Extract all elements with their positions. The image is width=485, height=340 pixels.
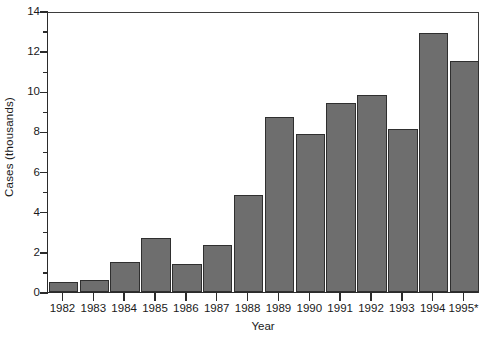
x-tick-group: [47, 293, 479, 302]
x-axis-tick: [93, 293, 94, 301]
bar: [357, 95, 386, 292]
bar: [450, 61, 479, 292]
x-axis-tick: [339, 293, 340, 301]
x-axis-tick-label: 1984: [111, 303, 137, 315]
bar: [203, 245, 232, 292]
x-axis-tick: [216, 293, 217, 301]
y-axis-tick-label: 4: [16, 207, 40, 219]
bar: [388, 129, 417, 292]
x-axis-tick: [309, 293, 310, 301]
x-axis-label-text: Year: [251, 320, 274, 332]
x-axis-tick: [463, 293, 464, 301]
y-axis-tick-label: 6: [16, 167, 40, 179]
x-axis-tick-label: 1988: [235, 303, 261, 315]
x-axis-tick-label: 1995*: [449, 303, 479, 315]
x-axis-tick-label: 1985: [142, 303, 168, 315]
bar: [326, 103, 355, 292]
x-axis-tick: [62, 293, 63, 301]
bar: [49, 282, 78, 292]
x-axis-tick-label: 1990: [296, 303, 322, 315]
x-axis-tick-label: 1986: [173, 303, 199, 315]
x-axis-tick: [247, 293, 248, 301]
x-axis-tick-label: 1983: [80, 303, 106, 315]
bar: [80, 280, 109, 292]
y-tick-label-group: 02468101214: [14, 0, 40, 340]
x-axis-tick: [370, 293, 371, 301]
bars-layer: [48, 13, 478, 292]
bar: [172, 264, 201, 292]
x-axis-tick-label: 1993: [389, 303, 415, 315]
x-axis-tick: [401, 293, 402, 301]
y-axis-tick-label: 12: [16, 46, 40, 58]
x-axis-tick-label: 1992: [358, 303, 384, 315]
y-axis-tick-label: 0: [16, 287, 40, 299]
x-axis-tick-label: 1994: [420, 303, 446, 315]
bar: [141, 238, 170, 292]
bar-chart-figure: Cases (thousands) 02468101214 1982198319…: [0, 0, 485, 340]
x-axis-tick: [185, 293, 186, 301]
plot-area: [47, 12, 479, 293]
y-axis-tick-label: 2: [16, 247, 40, 259]
x-axis-tick-label: 1987: [204, 303, 230, 315]
bar: [419, 33, 448, 292]
x-axis-tick: [154, 293, 155, 301]
x-tick-label-group: 1982198319841985198619871988198919901991…: [47, 303, 479, 319]
x-axis-tick: [123, 293, 124, 301]
x-axis-tick: [432, 293, 433, 301]
x-axis-tick-label: 1989: [266, 303, 292, 315]
bar: [110, 262, 139, 292]
x-axis-label: Year: [47, 320, 479, 332]
y-axis-tick-label: 10: [16, 87, 40, 99]
bar: [296, 134, 325, 292]
y-axis-tick-label: 8: [16, 127, 40, 139]
x-axis-tick: [278, 293, 279, 301]
x-axis-tick-label: 1982: [50, 303, 76, 315]
x-axis-tick-label: 1991: [327, 303, 353, 315]
bar: [234, 195, 263, 292]
y-axis-tick-label: 14: [16, 6, 40, 18]
bar: [265, 117, 294, 292]
